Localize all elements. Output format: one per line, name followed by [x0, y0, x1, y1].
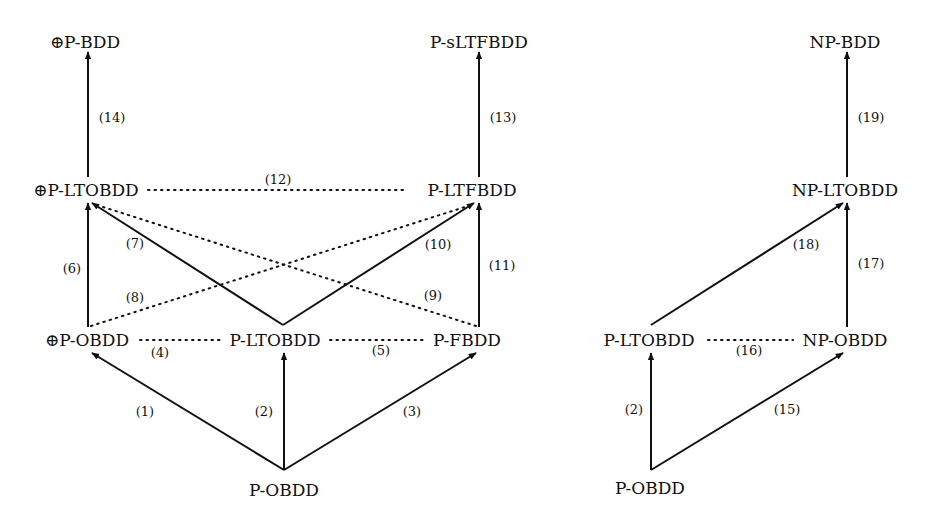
- edge-10-line: [283, 203, 474, 325]
- edge-label-16: (16): [736, 343, 763, 358]
- edge-label-18: (18): [793, 237, 820, 252]
- node-p-obdd: P-OBDD: [249, 480, 319, 500]
- edge-label-10: (10): [425, 237, 452, 252]
- edge-label-6: (6): [63, 261, 81, 276]
- edge-label-13: (13): [490, 110, 517, 125]
- node-np-obdd: NP-OBDD: [803, 330, 888, 350]
- left-diagram: ⊕P-BDD P-sLTFBDD ⊕P-LTOBDD P-LTFBDD ⊕P-O…: [33, 32, 528, 500]
- edge-18-line: [651, 203, 843, 325]
- edge-label-5: (5): [372, 343, 390, 358]
- edge-label-r2: (2): [625, 402, 643, 417]
- edge-label-2: (2): [255, 404, 273, 419]
- edge-label-9: (9): [424, 288, 442, 303]
- edge-label-12: (12): [265, 172, 292, 187]
- edge-label-4: (4): [151, 345, 169, 360]
- bdd-inclusion-diagram: ⊕P-BDD P-sLTFBDD ⊕P-LTOBDD P-LTFBDD ⊕P-O…: [0, 0, 927, 518]
- edge-8-line: [91, 206, 468, 326]
- node-p-ltobdd: P-LTOBDD: [229, 330, 320, 350]
- node-xor-p-ltobdd: ⊕P-LTOBDD: [33, 180, 138, 200]
- edge-label-1: (1): [136, 404, 154, 419]
- edge-label-7: (7): [126, 236, 144, 251]
- edge-7-line: [92, 203, 283, 325]
- node-xor-p-bdd: ⊕P-BDD: [50, 32, 120, 52]
- edge-label-15: (15): [774, 402, 801, 417]
- edge-label-3: (3): [403, 404, 421, 419]
- node-np-ltobdd: NP-LTOBDD: [792, 180, 898, 200]
- edge-3-line: [284, 353, 476, 470]
- node-p-ltobdd-right: P-LTOBDD: [603, 330, 694, 350]
- edge-label-14: (14): [99, 110, 126, 125]
- node-p-sltfbdd: P-sLTFBDD: [430, 32, 528, 52]
- node-p-ltfbdd: P-LTFBDD: [427, 180, 516, 200]
- node-np-bdd: NP-BDD: [810, 32, 881, 52]
- node-p-obdd-right: P-OBDD: [615, 478, 685, 498]
- edge-label-19: (19): [858, 110, 885, 125]
- right-diagram: NP-BDD NP-LTOBDD P-LTOBDD NP-OBDD P-OBDD…: [603, 32, 898, 498]
- edge-15-line: [651, 353, 843, 470]
- edge-label-11: (11): [489, 258, 516, 273]
- node-p-fbdd: P-FBDD: [433, 330, 501, 350]
- node-xor-p-obdd: ⊕P-OBDD: [45, 330, 129, 350]
- edge-label-8: (8): [126, 290, 144, 305]
- edge-label-17: (17): [858, 256, 885, 271]
- edge-9-line: [100, 206, 476, 326]
